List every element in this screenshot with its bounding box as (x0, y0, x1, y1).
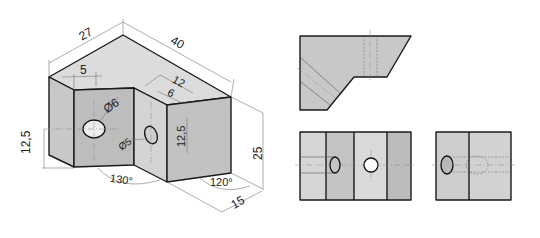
dim-depth-15: 15 (229, 193, 248, 212)
dim-5: 5 (80, 63, 87, 77)
isometric-view: 27 40 5 12 6 Ø6 Ø5 12,5 12,5 25 (19, 19, 265, 212)
dim-height-left: 12,5 (19, 130, 33, 154)
left-face (49, 77, 74, 167)
dim-angle-120: 120° (210, 176, 233, 188)
front-view (295, 132, 416, 200)
dim-height-mid: 12,5 (175, 126, 187, 147)
technical-drawing: 27 40 5 12 6 Ø6 Ø5 12,5 12,5 25 (0, 0, 540, 238)
top-view (297, 30, 411, 110)
dim-40: 40 (168, 33, 187, 52)
dim-angle-130: 130° (109, 172, 133, 187)
dim-27: 27 (76, 24, 95, 43)
dim-height-25: 25 (251, 146, 265, 160)
side-view (432, 132, 516, 200)
